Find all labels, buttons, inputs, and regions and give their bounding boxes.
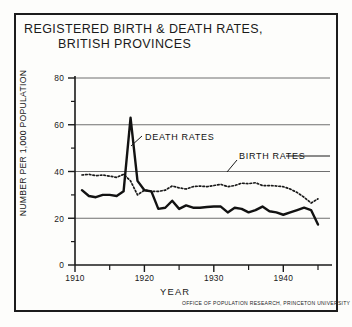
x-tick-1930: 1930 bbox=[204, 273, 224, 283]
x-tick-1910: 1910 bbox=[65, 273, 85, 283]
y-tick-40: 40 bbox=[54, 167, 64, 177]
x-tick-1940: 1940 bbox=[274, 273, 294, 283]
y-tick-20: 20 bbox=[54, 214, 64, 224]
y-tick-80: 80 bbox=[54, 73, 64, 83]
y-axis-ticks bbox=[68, 78, 75, 265]
birth-rates-series bbox=[82, 174, 318, 203]
y-tick-0: 0 bbox=[59, 260, 64, 270]
birth-rates-annotation: BIRTH RATES bbox=[239, 151, 305, 161]
death-rates-annotation: DEATH RATES bbox=[145, 132, 214, 142]
x-axis-ticks bbox=[75, 265, 318, 272]
y-tick-60: 60 bbox=[54, 120, 64, 130]
x-tick-labels: 1910 1920 1930 1940 bbox=[65, 273, 293, 283]
source-credit: OFFICE OF POPULATION RESEARCH, PRINCETON… bbox=[182, 300, 350, 306]
x-tick-1920: 1920 bbox=[135, 273, 155, 283]
x-axis-label: YEAR bbox=[160, 286, 190, 297]
chart-plot: 0 20 40 60 80 1910 1920 1930 1940 bbox=[0, 0, 352, 327]
chart-figure: REGISTERED BIRTH & DEATH RATES, BRITISH … bbox=[0, 0, 352, 327]
y-tick-labels: 0 20 40 60 80 bbox=[54, 73, 64, 270]
axis-lines bbox=[75, 76, 332, 265]
gridlines bbox=[75, 78, 330, 218]
